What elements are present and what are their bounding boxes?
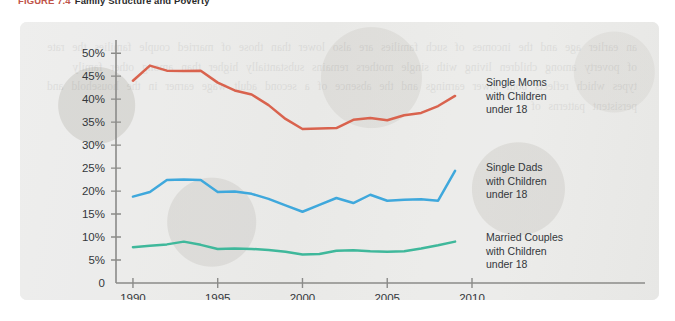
legend-single-dads-line2: with Children [486, 175, 547, 189]
svg-text:30%: 30% [82, 139, 105, 151]
legend-single-moms-line3: under 18 [486, 103, 547, 117]
svg-text:1995: 1995 [205, 292, 231, 300]
svg-text:0: 0 [99, 277, 105, 289]
svg-text:2010: 2010 [459, 292, 485, 300]
svg-text:5%: 5% [88, 254, 105, 266]
legend-single-moms-line2: with Children [486, 90, 547, 104]
legend-married-couples-line3: under 18 [486, 258, 563, 272]
legend-single-moms: Single Moms with Children under 18 [486, 76, 547, 117]
svg-text:2005: 2005 [374, 292, 400, 300]
svg-text:50%: 50% [82, 47, 105, 59]
legend-single-dads-line1: Single Dads [486, 161, 547, 175]
legend-single-moms-line1: Single Moms [486, 76, 547, 90]
line-chart-plot: 05%10%15%20%25%30%35%40%45%50%1990199520… [20, 22, 659, 300]
chart-tick-labels: 05%10%15%20%25%30%35%40%45%50%1990199520… [82, 47, 485, 300]
svg-text:10%: 10% [82, 231, 105, 243]
svg-text:35%: 35% [82, 116, 105, 128]
svg-text:1990: 1990 [120, 292, 146, 300]
svg-text:40%: 40% [82, 93, 105, 105]
legend-married-couples-line1: Married Couples [486, 231, 563, 245]
legend-married-couples-line2: with Children [486, 245, 563, 259]
figure-caption: FIGURE 7.4Family Structure and Poverty [18, 0, 210, 9]
legend-single-dads: Single Dads with Children under 18 [486, 161, 547, 202]
legend-single-dads-line3: under 18 [486, 188, 547, 202]
chart-series-lines [133, 66, 455, 255]
figure-number: FIGURE 7.4 [18, 0, 71, 6]
svg-text:2000: 2000 [290, 292, 316, 300]
svg-text:45%: 45% [82, 70, 105, 82]
svg-text:25%: 25% [82, 162, 105, 174]
chart-panel: an earlier age and the incomes of such f… [20, 22, 659, 300]
legend-married-couples: Married Couples with Children under 18 [486, 231, 563, 272]
svg-text:15%: 15% [82, 208, 105, 220]
figure-title: Family Structure and Poverty [75, 0, 210, 6]
svg-text:20%: 20% [82, 185, 105, 197]
chart-axes [116, 40, 645, 283]
